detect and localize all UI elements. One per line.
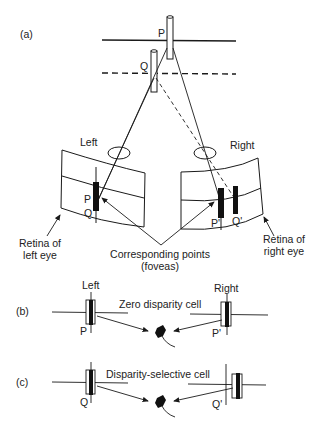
retina-left-q-label: Q xyxy=(84,207,92,219)
panel-b-right-label: Right xyxy=(214,282,239,294)
panel-b-point-p: P xyxy=(80,325,87,337)
retina-left-caption-line1: Retina of xyxy=(16,237,64,249)
rod-q xyxy=(151,50,157,92)
left-eye-label: Left xyxy=(80,136,98,148)
retina-right-p-label: P' xyxy=(211,217,220,229)
binocular-disparity-diagram xyxy=(0,0,314,431)
disparity-selective-neuron-icon xyxy=(155,395,175,417)
scene-q-plane-dashed xyxy=(102,73,236,74)
panel-c-point-q: Q xyxy=(80,396,88,408)
retina-right-q-label: Q' xyxy=(232,215,242,227)
retina-left-p-label: P xyxy=(84,193,91,205)
retina-right-caption-line1: Retina of xyxy=(258,233,310,245)
left-fovea-bar xyxy=(93,182,99,211)
panel-c-label: (c) xyxy=(16,376,28,388)
right-q-bar xyxy=(233,186,238,214)
panel-a-label: (a) xyxy=(20,28,33,40)
retina-left-caption-line2: left eye xyxy=(16,249,64,261)
selective-right-bar xyxy=(236,373,240,399)
panel-b-point-p-prime: P' xyxy=(212,327,221,339)
corresponding-points-line1: Corresponding points xyxy=(100,248,220,260)
right-p-bar xyxy=(218,188,224,218)
zero-left-bar xyxy=(89,300,93,325)
panel-b-label: (b) xyxy=(16,305,29,317)
left-retina xyxy=(61,147,145,227)
panel-c-point-q-prime: Q' xyxy=(212,398,222,410)
corresponding-points-line2: (foveas) xyxy=(100,260,220,272)
rod-p xyxy=(167,16,173,59)
zero-disparity-caption: Zero disparity cell xyxy=(119,298,201,310)
right-eye-label: Right xyxy=(230,139,255,151)
retina-right-caption-line2: right eye xyxy=(258,245,310,257)
disparity-selective-caption: Disparity-selective cell xyxy=(106,368,210,380)
sight-lines xyxy=(96,48,233,205)
point-p-label: P xyxy=(158,27,165,39)
selective-left-bar xyxy=(89,370,93,395)
point-q-label: Q xyxy=(140,60,148,72)
zero-right-bar xyxy=(225,302,229,327)
panel-b-left-label: Left xyxy=(82,279,100,291)
zero-disparity-neuron-icon xyxy=(155,325,175,347)
